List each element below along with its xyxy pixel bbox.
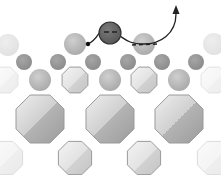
small-atom (85, 54, 101, 70)
surface-atom (203, 33, 221, 55)
small-octagon-atom (131, 67, 157, 93)
diagram-canvas (0, 0, 221, 175)
bottom-octagon-row (0, 141, 221, 174)
bottom-octagon-atom (197, 141, 221, 174)
surface-atom (64, 33, 86, 55)
mid-atom (29, 69, 51, 91)
adatom (99, 22, 121, 44)
adatom-circle (99, 22, 121, 44)
large-octagon-atom (86, 95, 134, 143)
mid-atom (168, 69, 190, 91)
bottom-octagon-atom (0, 141, 23, 174)
mid-atom (99, 69, 121, 91)
large-octagon-atom (155, 95, 203, 143)
small-octagon-atom (0, 67, 18, 93)
adatom-hopping-diagram (0, 0, 221, 175)
small-octagon-atom (62, 67, 88, 93)
small-atom-row (16, 54, 204, 70)
small-atom (16, 54, 32, 70)
small-atom (154, 54, 170, 70)
small-atom (50, 54, 66, 70)
start-point-icon (86, 42, 90, 46)
small-octagon-atom (201, 67, 221, 93)
small-atom (188, 54, 204, 70)
surface-atom (0, 34, 19, 56)
mid-atom-row (29, 69, 190, 91)
large-octagon-atom (16, 95, 64, 143)
small-atom (120, 54, 136, 70)
bottom-octagon-atom (127, 141, 160, 174)
large-octagon-row (16, 95, 203, 143)
bottom-octagon-atom (58, 141, 91, 174)
arrow-up-icon (173, 5, 180, 14)
hop-trajectory (86, 5, 180, 46)
